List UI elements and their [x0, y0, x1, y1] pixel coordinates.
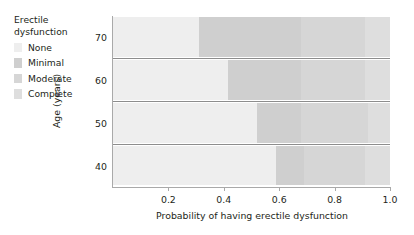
legend-label-none: None: [28, 42, 52, 53]
x-tick: [279, 187, 280, 191]
bar-row: [113, 17, 390, 57]
legend-swatch-complete: [14, 89, 22, 99]
bar-segment-minimal: [199, 17, 301, 57]
x-tick-label: 0.8: [327, 194, 342, 205]
bar-segment-minimal: [257, 103, 301, 143]
bar-segment-moderate: [304, 146, 365, 186]
bar-segment-none: [113, 146, 276, 186]
legend-swatch-none: [14, 43, 22, 53]
bar-separator: [113, 144, 390, 145]
legend-swatch-minimal: [14, 58, 22, 68]
y-tick-label: 60: [95, 75, 107, 86]
x-tick-label: 1.0: [383, 194, 398, 205]
bar-segment-complete: [365, 17, 390, 57]
y-tick-label: 50: [95, 117, 107, 128]
y-axis-title: Age (years): [51, 74, 62, 128]
bar-segment-moderate: [301, 103, 367, 143]
plot-wrapper: 706050400.20.40.60.81.0: [113, 16, 390, 187]
y-tick-label: 40: [95, 160, 107, 171]
bar-segment-moderate: [301, 60, 365, 100]
x-axis-line: [112, 187, 391, 188]
bar-row: [113, 146, 390, 186]
bar-segment-none: [113, 103, 257, 143]
x-tick: [390, 187, 391, 191]
y-tick-label: 70: [95, 32, 107, 43]
x-tick-label: 0.2: [161, 194, 176, 205]
bar-separator: [113, 58, 390, 59]
x-axis-title: Probability of having erectile dysfuncti…: [156, 210, 348, 221]
bar-segment-none: [113, 17, 199, 57]
bar-row: [113, 103, 390, 143]
bar-separator: [113, 101, 390, 102]
legend-item-none: None: [14, 40, 106, 56]
bar-segment-complete: [365, 146, 390, 186]
bar-segment-minimal: [276, 146, 304, 186]
bar-segment-moderate: [301, 17, 365, 57]
legend-swatch-moderate: [14, 74, 22, 84]
x-tick: [224, 187, 225, 191]
legend-item-minimal: Minimal: [14, 55, 106, 71]
chart-figure: Erectile dysfunction None Minimal Modera…: [0, 0, 414, 235]
x-tick: [335, 187, 336, 191]
bar-row: [113, 60, 390, 100]
bar-segment-complete: [365, 60, 390, 100]
legend-title: Erectile dysfunction: [14, 14, 106, 37]
legend-label-minimal: Minimal: [28, 57, 64, 68]
plot-area: [113, 16, 390, 187]
bar-segment-none: [113, 60, 228, 100]
x-tick-label: 0.6: [272, 194, 287, 205]
bar-segment-complete: [368, 103, 390, 143]
bar-segment-minimal: [228, 60, 301, 100]
x-tick-label: 0.4: [216, 194, 231, 205]
x-tick: [168, 187, 169, 191]
